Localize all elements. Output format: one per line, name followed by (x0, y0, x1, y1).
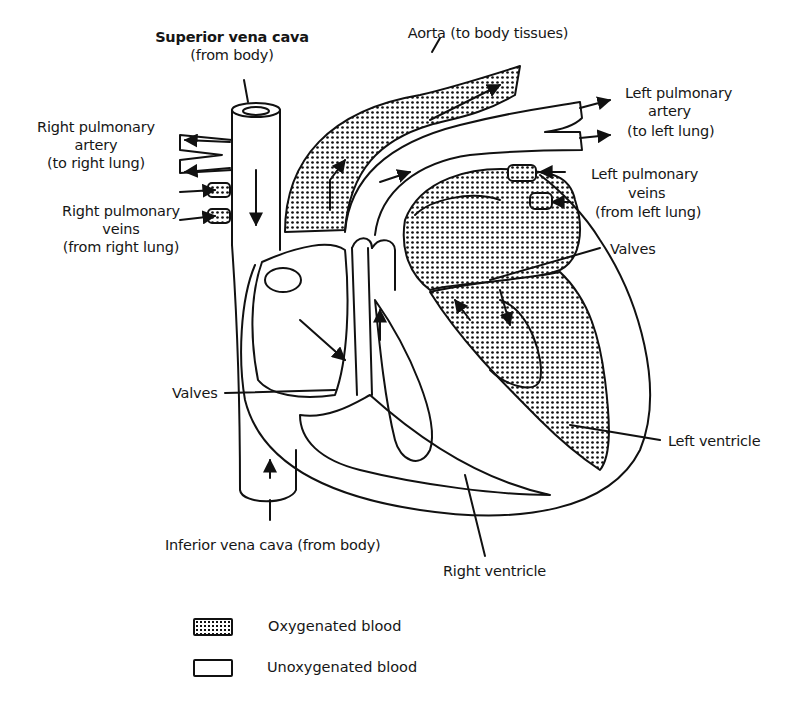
legend-swatch-oxygenated (193, 618, 233, 636)
label-valves-right: Valves (610, 240, 656, 258)
label-left-pulmonary-artery-2: artery (648, 102, 691, 120)
label-right-pulmonary-artery-1: Right pulmonary (26, 118, 166, 136)
left-pulmonary-vein-lower (530, 193, 552, 209)
label-left-pulmonary-veins-3: (from left lung) (595, 203, 701, 221)
label-right-pulmonary-artery-2: artery (26, 136, 166, 154)
label-right-pulmonary-veins-3: (from right lung) (46, 238, 196, 256)
label-left-ventricle: Left ventricle (668, 432, 760, 450)
label-superior-vena-cava: Superior vena cava (152, 28, 312, 46)
label-left-pulmonary-artery-3: (to left lung) (627, 122, 714, 140)
label-left-pulmonary-veins-1: Left pulmonary (591, 165, 698, 183)
label-right-pulmonary-veins-2: veins (46, 220, 196, 238)
label-aorta: Aorta (to body tissues) (388, 24, 588, 42)
label-right-ventricle: Right ventricle (443, 562, 546, 580)
label-right-pulmonary-veins-1: Right pulmonary (46, 202, 196, 220)
septum (352, 248, 372, 395)
label-inferior-vena-cava: Inferior vena cava (from body) (165, 536, 381, 554)
legend-label-unoxygenated: Unoxygenated blood (267, 659, 417, 675)
label-valves-left: Valves (172, 384, 218, 402)
leader-superior-vena-cava (244, 80, 248, 102)
right-ventricle (300, 395, 550, 495)
label-right-pulmonary-artery-3: (to right lung) (26, 154, 166, 172)
label-superior-vena-cava-note: (from body) (152, 46, 312, 64)
legend-label-oxygenated: Oxygenated blood (268, 618, 401, 634)
label-left-pulmonary-artery-1: Left pulmonary (625, 84, 732, 102)
label-left-pulmonary-veins-2: veins (628, 184, 665, 202)
left-pulmonary-vein-upper (508, 165, 536, 181)
legend-swatch-unoxygenated (193, 659, 233, 677)
